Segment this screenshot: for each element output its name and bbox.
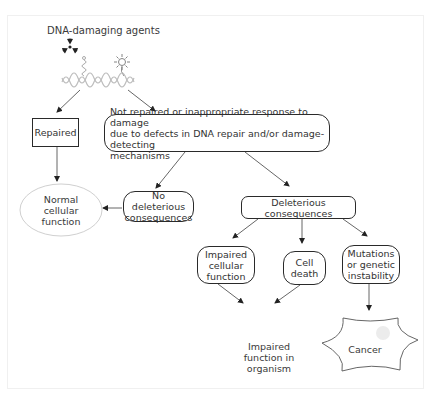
node-repaired-label: Repaired (34, 127, 76, 138)
arrow-cell-death-to-organism (275, 285, 300, 303)
node-impaired-cellular-line3: function (205, 271, 247, 282)
node-deleterious-label: Deleterious consequences (242, 197, 355, 219)
node-deleterious-consequences: Deleterious consequences (241, 196, 356, 219)
node-normal-line2: cellular (36, 205, 86, 216)
node-impaired-function-organism: Impaired function in organism (238, 341, 300, 374)
node-not-repaired-line2: due to defects in DNA repair and/or dama… (110, 128, 329, 150)
arrow-impaired-cellular-to-organism (218, 284, 243, 303)
node-not-repaired: Not repaired or inappropriate response t… (104, 114, 330, 152)
radiation-icon (62, 38, 78, 53)
node-organism-line2: function in (238, 352, 300, 363)
node-normal-line1: Normal (36, 194, 86, 205)
node-organism-line1: Impaired (238, 341, 300, 352)
node-cell-death-line2: death (291, 268, 318, 279)
node-mutations-line1: Mutations (347, 248, 395, 259)
node-impaired-cellular-line2: cellular (205, 260, 247, 271)
node-no-deleterious-line1: No deleterious (124, 190, 193, 212)
arrow-agents-to-repaired (57, 90, 80, 112)
node-mutations-genetic-instability: Mutations or genetic instability (342, 245, 400, 284)
node-mutations-line3: instability (347, 270, 395, 281)
node-no-deleterious-line2: consequences (124, 212, 193, 223)
node-cancer-label: Cancer (345, 344, 385, 355)
node-mutations-line2: or genetic (347, 259, 395, 270)
node-cell-death-line1: Cell (291, 257, 318, 268)
node-not-repaired-line3: mechanisms (110, 150, 329, 161)
arrow-deleterious-to-mutations (343, 219, 367, 236)
node-impaired-cellular-function: Impaired cellular function (197, 246, 255, 284)
node-repaired: Repaired (32, 118, 79, 147)
node-not-repaired-line1: Not repaired or inappropriate response t… (110, 106, 329, 128)
cancer-cell-nucleus (376, 326, 390, 340)
node-cell-death: Cell death (283, 251, 326, 285)
node-impaired-cellular-line1: Impaired (205, 249, 247, 260)
node-normal-line3: function (36, 216, 86, 227)
node-normal-cellular-function: Normal cellular function (36, 194, 86, 227)
node-no-deleterious-consequences: No deleterious consequences (123, 191, 194, 222)
arrow-deleterious-to-impaired-cellular (233, 219, 258, 238)
node-organism-line3: organism (238, 363, 300, 374)
chemical-agent-icon (82, 57, 86, 77)
diagram-title: DNA-damaging agents (47, 25, 160, 36)
